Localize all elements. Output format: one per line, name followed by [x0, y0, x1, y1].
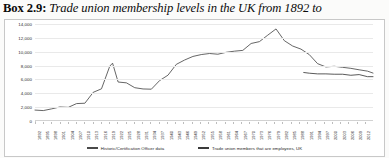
- y-axis-tick-label: 8,000: [21, 63, 32, 68]
- box-label: Box 2.9:: [3, 1, 46, 15]
- series-line: [35, 29, 373, 111]
- x-axis-tick-label: 1997: [325, 131, 330, 140]
- x-axis-tick: [183, 122, 184, 124]
- x-axis-tick: [233, 122, 234, 124]
- x-axis-tick: [258, 122, 259, 124]
- x-axis-tick-label: 1895: [45, 131, 50, 140]
- x-axis-tick: [101, 122, 102, 124]
- figure-caption: Box 2.9: Trade union membership levels i…: [3, 1, 389, 19]
- x-axis-tick: [159, 122, 160, 124]
- figure-title: Trade union membership levels in the UK …: [49, 1, 321, 15]
- y-axis-tick-label: 12,000: [18, 35, 32, 40]
- x-axis-tick-label: 1907: [78, 131, 83, 140]
- x-axis-tick-label: 1958: [218, 131, 223, 140]
- x-axis-tick: [175, 122, 176, 124]
- x-axis-tick: [340, 122, 341, 124]
- x-axis-tick-label: 1934: [152, 131, 157, 140]
- gridline: [35, 24, 373, 25]
- x-axis-tick: [167, 122, 168, 124]
- y-axis-tick-label: 14,000: [18, 22, 32, 27]
- x-axis-tick: [76, 122, 77, 124]
- gridline: [35, 52, 373, 53]
- x-axis-tick: [216, 122, 217, 124]
- x-axis-tick-label: 1949: [193, 131, 198, 140]
- x-axis-tick-label: 1973: [259, 131, 264, 140]
- y-axis-tick-label: 6,000: [21, 77, 32, 82]
- x-axis-tick-label: 2000: [333, 131, 338, 140]
- x-axis-tick: [93, 122, 94, 124]
- x-axis-tick-label: 1931: [144, 131, 149, 140]
- x-axis-tick-label: 2009: [358, 131, 363, 140]
- x-axis-tick-label: 1904: [70, 131, 75, 140]
- legend-swatch-icon: [198, 147, 209, 149]
- x-axis-tick: [126, 122, 127, 124]
- y-axis-tick-label: 0: [30, 119, 33, 124]
- x-axis-tick: [241, 122, 242, 124]
- x-axis-tick: [266, 122, 267, 124]
- y-axis-tick-label: 4,000: [21, 91, 32, 96]
- x-axis-tick-label: 2003: [342, 131, 347, 140]
- x-axis-tick-label: 1985: [292, 131, 297, 140]
- x-axis-tick: [225, 122, 226, 124]
- x-axis-tick-label: 1913: [94, 131, 99, 140]
- x-axis-tick-label: 1892: [37, 131, 42, 140]
- y-axis-labels: 02,0004,0006,0008,00010,00012,00014,000: [5, 24, 32, 121]
- x-axis-tick-label: 1961: [226, 131, 231, 140]
- figure-container: Box 2.9: Trade union membership levels i…: [0, 0, 389, 158]
- x-axis-tick: [274, 122, 275, 124]
- x-axis-tick-label: 1979: [276, 131, 281, 140]
- x-axis-tick: [150, 122, 151, 124]
- x-axis-tick: [324, 122, 325, 124]
- x-axis-tick: [299, 122, 300, 124]
- x-axis-tick: [142, 122, 143, 124]
- x-axis-tick: [43, 122, 44, 124]
- x-axis-tick: [307, 122, 308, 124]
- x-axis-tick-label: 1982: [284, 131, 289, 140]
- x-axis-tick: [348, 122, 349, 124]
- x-axis-tick-label: 1916: [103, 131, 108, 140]
- x-axis-tick: [134, 122, 135, 124]
- legend-label: Trade union members that are employees, …: [212, 146, 302, 151]
- x-axis-tick: [117, 122, 118, 124]
- gridline: [35, 79, 373, 80]
- legend-item-employees: Trade union members that are employees, …: [198, 146, 302, 151]
- y-axis-tick-label: 10,000: [18, 49, 32, 54]
- x-axis-tick: [249, 122, 250, 124]
- y-axis-tick-label: 2,000: [21, 105, 32, 110]
- legend-item-historic: Historic/Certification Officer data: [87, 146, 164, 151]
- x-axis-labels: 1892189518981901190419071910191319161919…: [35, 122, 373, 142]
- x-axis-tick-label: 2012: [366, 131, 371, 140]
- x-axis-tick: [84, 122, 85, 124]
- x-axis-tick: [109, 122, 110, 124]
- x-axis-tick-label: 1922: [119, 131, 124, 140]
- legend-swatch-icon: [87, 147, 98, 149]
- x-axis-tick-label: 1946: [185, 131, 190, 140]
- x-axis-tick-label: 1994: [317, 131, 322, 140]
- x-axis-tick: [365, 122, 366, 124]
- gridline: [35, 107, 373, 108]
- x-axis-tick-label: 1970: [251, 131, 256, 140]
- x-axis-tick: [60, 122, 61, 124]
- x-axis-tick: [315, 122, 316, 124]
- x-axis-tick: [357, 122, 358, 124]
- x-axis-tick-label: 1919: [111, 131, 116, 140]
- x-axis-tick-label: 1955: [210, 131, 215, 140]
- x-axis-tick: [332, 122, 333, 124]
- chart-frame: 02,0004,0006,0008,00010,00012,00014,000 …: [4, 19, 385, 157]
- gridline: [35, 66, 373, 67]
- x-axis-tick: [192, 122, 193, 124]
- x-axis-tick-label: 1928: [136, 131, 141, 140]
- x-axis-tick-label: 1943: [177, 131, 182, 140]
- chart-legend: Historic/Certification Officer data Trad…: [5, 141, 384, 155]
- x-axis-tick-label: 1967: [243, 131, 248, 140]
- x-axis-tick-label: 1898: [53, 131, 58, 140]
- x-axis-tick: [35, 122, 36, 124]
- x-axis-tick: [208, 122, 209, 124]
- x-axis-tick-label: 1925: [127, 131, 132, 140]
- x-axis-tick: [200, 122, 201, 124]
- x-axis-tick-label: 1901: [61, 131, 66, 140]
- gridline: [35, 93, 373, 94]
- x-axis-tick: [51, 122, 52, 124]
- series-line: [304, 73, 373, 77]
- legend-label: Historic/Certification Officer data: [101, 146, 164, 151]
